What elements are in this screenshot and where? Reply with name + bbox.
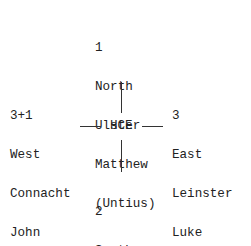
north-connector	[121, 82, 122, 113]
west-connector	[80, 126, 101, 127]
center-label: HCE	[110, 120, 133, 133]
east-evangelist: Luke	[172, 227, 240, 240]
east-province: Leinster	[172, 188, 240, 201]
north-evangelist: Matthew	[95, 159, 155, 172]
south-number: 2	[95, 206, 163, 219]
east-connector	[142, 126, 163, 127]
west-node: 3+1 West Connacht John (Pylax)	[10, 84, 70, 246]
east-node: 3 East Leinster Luke (Punchus)	[172, 84, 240, 246]
west-number: 3+1	[10, 110, 70, 123]
south-node: 2 South Munster Mark (Muncius)	[95, 180, 163, 246]
north-direction: North	[95, 81, 155, 94]
north-number: 1	[95, 42, 155, 55]
west-direction: West	[10, 149, 70, 162]
south-connector	[121, 140, 122, 172]
west-province: Connacht	[10, 188, 70, 201]
east-number: 3	[172, 110, 240, 123]
east-direction: East	[172, 149, 240, 162]
west-evangelist: John	[10, 227, 70, 240]
